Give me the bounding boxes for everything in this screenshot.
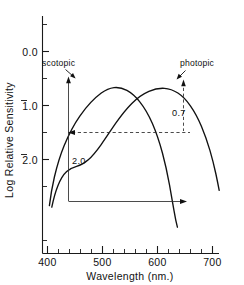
y-tick-label-1: 1.0	[22, 100, 38, 112]
y-tick-label-1-group: 1.0	[21, 100, 38, 112]
wavelength-shift-right-arrowhead	[180, 199, 187, 204]
delta-2-0-label: 2.0	[72, 156, 86, 166]
photopic-curve	[52, 88, 219, 207]
delta-2-0-annotation: 2.0	[66, 77, 86, 202]
scotopic-label: scotopic	[42, 58, 76, 68]
scotopic-callout: scotopic	[42, 58, 76, 78]
x-tick-label-700: 700	[203, 256, 222, 268]
y-tick-label-2: 2.0	[22, 154, 38, 166]
y-axis-ticks	[43, 25, 50, 241]
figure-container: 0.0 1.0 2.0	[0, 0, 244, 285]
photopic-callout: photopic	[177, 58, 215, 79]
y-axis-title: Log Relative Sensitivity	[3, 82, 15, 198]
y-axis-tick-labels: 0.0 1.0 2.0	[21, 46, 38, 166]
equal-sensitivity-connector	[68, 130, 190, 135]
x-axis-ticks	[48, 246, 213, 254]
x-tick-label-600: 600	[148, 256, 167, 268]
delta-2-0-top-arrowhead	[66, 77, 71, 84]
delta-0-7-label: 0.7	[172, 108, 186, 118]
wavelength-shift-annotation	[69, 199, 188, 204]
x-tick-label-500: 500	[93, 256, 112, 268]
photopic-label: photopic	[180, 58, 215, 68]
x-axis-tick-labels: 400 500 600 700	[38, 256, 222, 268]
x-axis-title: Wavelength (nm.)	[86, 270, 173, 282]
delta-0-7-annotation: 0.7	[172, 80, 186, 132]
y-tick-label-2-group: 2.0	[21, 154, 38, 166]
y-tick-label-0: 0.0	[22, 46, 38, 58]
x-tick-label-400: 400	[38, 256, 57, 268]
scotopic-photopic-sensitivity-chart: 0.0 1.0 2.0	[0, 0, 244, 285]
delta-0-7-top-arrowhead	[181, 80, 186, 87]
